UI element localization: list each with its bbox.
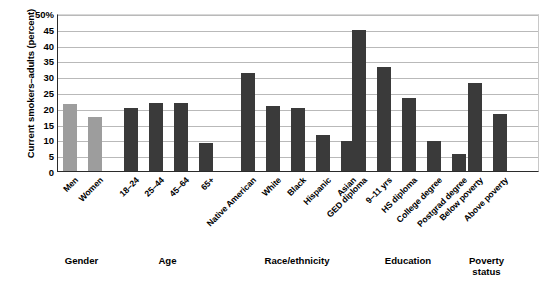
- y-tick-label: 20: [10, 104, 54, 113]
- category-label: 45–64: [167, 175, 191, 199]
- gridline: [58, 31, 538, 32]
- category-labels: MenWomen18–2425–4445–6465+Native America…: [57, 175, 539, 250]
- category-label: Men: [61, 175, 80, 194]
- category-label: 25–44: [142, 175, 166, 199]
- bar: [124, 108, 138, 171]
- bar-chart: Current smokers–adults (percent) 0510152…: [0, 0, 545, 291]
- category-label: White: [260, 175, 283, 198]
- gridline: [58, 15, 538, 16]
- group-label-race: Race/ethnicity: [242, 255, 352, 266]
- gridline: [58, 94, 538, 95]
- group-labels: GenderAgeRace/ethnicityEducationPovertys…: [57, 255, 539, 291]
- group-label-line: status: [432, 266, 542, 277]
- category-label: 65+: [199, 175, 216, 192]
- category-label: 18–24: [117, 175, 141, 199]
- bar: [316, 135, 330, 171]
- y-tick-label: 25: [10, 89, 54, 98]
- category-label: Women: [77, 175, 106, 204]
- group-label-poverty: Povertystatus: [432, 255, 542, 277]
- bar: [199, 143, 213, 171]
- gridline: [58, 62, 538, 63]
- y-tick-label: 30: [10, 73, 54, 82]
- y-axis-tick-labels: 05101520253035404550%: [6, 14, 54, 172]
- bar: [402, 98, 416, 171]
- bar: [266, 106, 280, 171]
- y-tick-label: 45: [10, 25, 54, 34]
- bar: [291, 108, 305, 171]
- group-label-line: Poverty: [432, 255, 542, 266]
- bar: [377, 67, 391, 171]
- bar: [493, 114, 507, 171]
- y-tick-label: 5: [10, 152, 54, 161]
- y-tick-label: 35: [10, 57, 54, 66]
- bar: [352, 30, 366, 171]
- y-tick-label: 10: [10, 136, 54, 145]
- bar: [241, 73, 255, 171]
- y-tick-label: 15: [10, 120, 54, 129]
- group-label-age: Age: [113, 255, 223, 266]
- gridline: [58, 47, 538, 48]
- bar: [468, 83, 482, 171]
- bar: [452, 154, 466, 171]
- y-tick-label: 40: [10, 41, 54, 50]
- bar: [427, 141, 441, 171]
- bar: [63, 104, 77, 171]
- bar: [174, 103, 188, 171]
- gridline: [58, 78, 538, 79]
- plot-area: [57, 14, 539, 172]
- y-tick-label: 0: [10, 168, 54, 177]
- group-label-line: Age: [113, 255, 223, 266]
- bar: [88, 117, 102, 171]
- bar: [149, 103, 163, 171]
- y-tick-label: 50%: [10, 10, 54, 19]
- group-label-line: Race/ethnicity: [242, 255, 352, 266]
